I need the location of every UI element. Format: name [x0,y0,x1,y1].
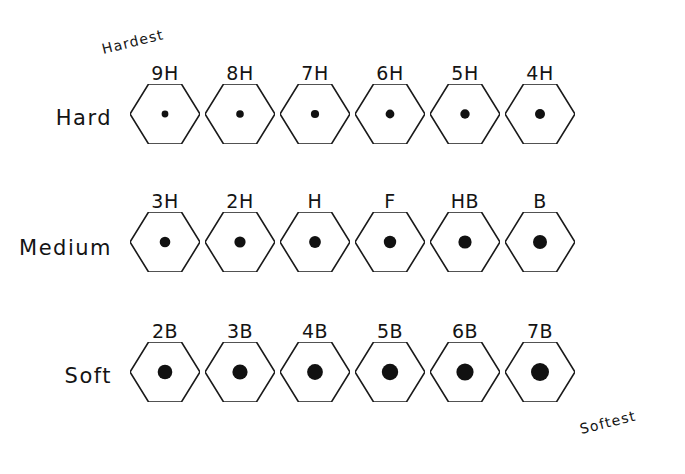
grade-label: B [533,192,547,211]
pencil-cross-section [130,212,200,272]
pencil-grade-cell: 5B [355,342,425,402]
pencil-cross-section [355,212,425,272]
pencil-grade-cell: 4B [280,342,350,402]
row-label-hard: Hard [56,106,112,130]
graphite-core-dot-icon [160,237,171,248]
grade-label: 3B [227,322,253,341]
pencil-cross-section [355,342,425,402]
row-label-medium: Medium [19,236,112,260]
pencil-cross-section [130,342,200,402]
graphite-core-dot-icon [531,363,549,381]
pencil-grade-cell: 8H [205,84,275,144]
pencil-grade-cell: 7B [505,342,575,402]
graphite-core-dot-icon [236,110,244,118]
pencil-cross-section [430,84,500,144]
pencil-grade-cell: B [505,212,575,272]
graphite-core-dot-icon [386,110,395,119]
pencil-grade-cell: 5H [430,84,500,144]
pencil-grade-cell: 3B [205,342,275,402]
grade-label: 7H [301,64,328,83]
pencil-grade-cell: H [280,212,350,272]
pencil-grade-cell: 3H [130,212,200,272]
graphite-core-dot-icon [535,109,545,119]
pencil-grade-cell: 2B [130,342,200,402]
pencil-grade-cell: 6H [355,84,425,144]
grade-label: 5B [377,322,403,341]
grade-label: HB [451,192,479,211]
pencil-cross-section [130,84,200,144]
pencil-cross-section [505,84,575,144]
graphite-core-dot-icon [533,235,547,249]
graphite-core-dot-icon [382,364,398,380]
pencil-grade-cell: 2H [205,212,275,272]
pencil-cross-section [205,342,275,402]
pencil-cross-section [280,342,350,402]
graphite-core-dot-icon [232,364,247,379]
graphite-core-dot-icon [158,365,173,380]
grade-label: 9H [151,64,178,83]
pencil-grade-chart: Hard9H8H7H6H5H4HMedium3H2HHFHBBSoft2B3B4… [0,0,685,474]
pencil-grade-cell: 7H [280,84,350,144]
grade-label: 2H [226,192,253,211]
pencil-cross-section [280,84,350,144]
grade-label: 5H [451,64,478,83]
pencil-grade-cell: F [355,212,425,272]
graphite-core-dot-icon [311,110,319,118]
grade-label: 2B [152,322,178,341]
graphite-core-dot-icon [307,364,323,380]
row-label-soft: Soft [65,364,112,388]
pencil-cross-section [355,84,425,144]
scale-extreme-note-softest: Softest [578,408,638,437]
pencil-cross-section [505,212,575,272]
graphite-core-dot-icon [458,235,471,248]
graphite-core-dot-icon [162,111,169,118]
pencil-cross-section [205,84,275,144]
grade-label: 3H [151,192,178,211]
pencil-cross-section [430,342,500,402]
grade-label: 6H [376,64,403,83]
grade-label: H [308,192,323,211]
pencil-grade-cell: HB [430,212,500,272]
grade-label: 4H [526,64,553,83]
pencil-grade-cell: 9H [130,84,200,144]
scale-extreme-note-hardest: Hardest [100,26,165,57]
grade-label: 6B [452,322,478,341]
grade-label: 7B [527,322,553,341]
graphite-core-dot-icon [456,363,473,380]
grade-label: F [384,192,395,211]
pencil-cross-section [505,342,575,402]
pencil-grade-cell: 4H [505,84,575,144]
pencil-cross-section [205,212,275,272]
graphite-core-dot-icon [234,236,245,247]
pencil-cross-section [280,212,350,272]
grade-label: 4B [302,322,328,341]
graphite-core-dot-icon [384,236,396,248]
pencil-cross-section [430,212,500,272]
grade-label: 8H [226,64,253,83]
pencil-grade-cell: 6B [430,342,500,402]
graphite-core-dot-icon [460,109,469,118]
graphite-core-dot-icon [309,236,321,248]
